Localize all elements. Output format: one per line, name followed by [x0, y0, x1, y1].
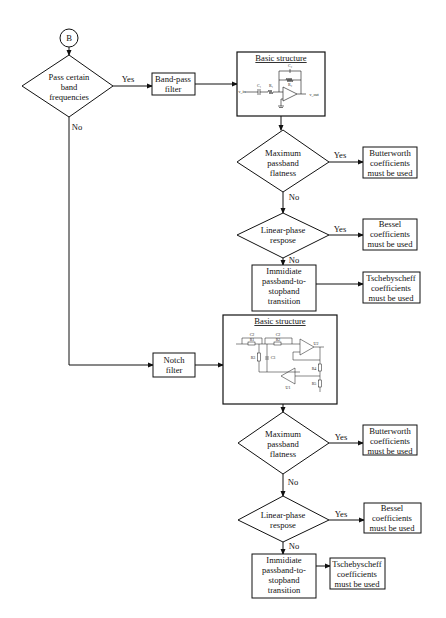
ncircuit-label-r2: R2: [276, 337, 281, 342]
bp-butter-line3: must be used: [368, 168, 414, 178]
circuit-label-c2: C₂: [288, 63, 293, 68]
decision-main-line1: Pass certain: [49, 72, 91, 82]
bp-phase-line2: respose: [270, 235, 296, 245]
bp-flat-line2: passband: [267, 158, 299, 168]
circuit-label-vout: v_out: [309, 92, 319, 97]
n-phase-line1: Linear-phase: [261, 510, 306, 520]
n-bessel-line1: Bessel: [381, 503, 404, 513]
decision-main-line2: band: [61, 82, 78, 92]
bp-trans-line2: passband-to-: [262, 276, 306, 286]
notch-label-1: Notch: [163, 355, 185, 365]
circuit-label-c1: C₁: [257, 83, 262, 88]
ncircuit-label-r3: R3: [251, 355, 256, 360]
bandpass-structure-title: Basic structure: [255, 53, 306, 63]
bp-phase-no: No: [289, 255, 300, 265]
bandpass-label-1: Band-pass: [155, 74, 191, 84]
bp-flat-line3: flatness: [270, 168, 297, 178]
n-trans-line2: passband-to-: [262, 565, 306, 575]
start-connector-label: B: [66, 33, 72, 43]
bp-phase-yes: Yes: [334, 224, 347, 234]
bp-phase-line1: Linear-phase: [261, 225, 306, 235]
n-tscheby-line3: must be used: [335, 579, 381, 589]
n-bessel-line3: must be used: [370, 523, 416, 533]
ncircuit-label-u2: U2: [314, 341, 319, 346]
ncircuit-label-r1: R1: [250, 337, 255, 342]
ncircuit-label-u1: U1: [286, 385, 291, 390]
n-flat-line2: passband: [267, 439, 299, 449]
ncircuit-label-r5: R5: [312, 381, 317, 386]
notch-structure-title: Basic structure: [254, 316, 305, 326]
bp-bessel-line3: must be used: [368, 239, 414, 249]
n-flat-no: No: [288, 477, 299, 487]
notch-label-2: filter: [166, 365, 183, 375]
n-trans-line4: transition: [268, 585, 301, 595]
decision-main-line3: frequencies: [49, 92, 89, 102]
bp-bessel-line2: coefficients: [370, 229, 411, 239]
n-trans-line1: Immidiate: [266, 555, 302, 565]
bp-flat-no: No: [289, 192, 300, 202]
bp-butter-line2: coefficients: [370, 158, 411, 168]
bp-tscheby-line2: coefficients: [371, 283, 412, 293]
n-butter-line2: coefficients: [370, 436, 411, 446]
n-phase-yes: Yes: [335, 509, 348, 519]
n-flat-line1: Maximum: [265, 429, 301, 439]
bp-tscheby-line3: must be used: [369, 293, 415, 303]
bp-trans-line1: Immidiate: [266, 266, 302, 276]
ncircuit-label-c3: C3: [271, 355, 276, 360]
n-phase-line2: respose: [270, 520, 296, 530]
decision-main-no: No: [72, 122, 83, 132]
decision-main-yes: Yes: [122, 74, 135, 84]
n-phase-no: No: [289, 541, 300, 551]
bp-bessel-line1: Bessel: [379, 219, 402, 229]
n-butter-line3: must be used: [368, 446, 414, 456]
n-flat-yes: Yes: [335, 432, 348, 442]
n-bessel-line2: coefficients: [372, 513, 413, 523]
bp-tscheby-line1: Tschebyscheff: [366, 273, 415, 283]
circuit-label-r2: R₂: [288, 82, 293, 87]
bp-trans-line4: transition: [268, 296, 301, 306]
bp-butter-line1: Butterworth: [369, 148, 411, 158]
n-trans-line3: stopband: [268, 575, 300, 585]
bp-flat-line1: Maximum: [265, 148, 301, 158]
bp-flat-yes: Yes: [334, 150, 347, 160]
circuit-label-vin: v_in: [238, 89, 245, 94]
flowchart-canvas: B Pass certain band frequencies Yes No B…: [0, 0, 446, 618]
bp-trans-line3: stopband: [268, 286, 300, 296]
circuit-label-r1: R₁: [269, 83, 274, 88]
n-tscheby-line2: coefficients: [337, 569, 378, 579]
n-tscheby-line1: Tschebyscheff: [332, 559, 381, 569]
ncircuit-label-r4: R4: [312, 366, 317, 371]
n-flat-line3: flatness: [270, 449, 297, 459]
bandpass-label-2: filter: [165, 84, 182, 94]
n-butter-line1: Butterworth: [369, 426, 411, 436]
